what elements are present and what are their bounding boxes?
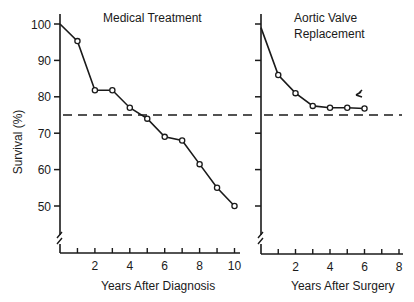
y-tick-label: 80 xyxy=(38,90,52,104)
right-title-line1: Aortic Valve xyxy=(294,11,357,25)
x-tick-label: 8 xyxy=(196,259,203,273)
left-x-label: Years After Diagnosis xyxy=(101,279,215,293)
data-point-marker xyxy=(75,39,80,44)
x-tick-label: 6 xyxy=(361,260,368,274)
left-title: Medical Treatment xyxy=(103,11,202,25)
data-point-marker xyxy=(92,88,97,93)
data-point-marker xyxy=(162,134,167,139)
x-tick-label: 4 xyxy=(126,259,133,273)
data-point-marker xyxy=(310,103,315,108)
x-tick-label: 8 xyxy=(396,260,403,274)
y-tick-label: 100 xyxy=(31,18,51,32)
survival-chart: 1009080706050 246810 Medical Treatment Y… xyxy=(0,0,414,302)
y-tick-label: 60 xyxy=(38,163,52,177)
right-title-line2: Replacement xyxy=(294,27,365,41)
x-tick-label: 2 xyxy=(92,259,99,273)
y-tick-label: 70 xyxy=(38,127,52,141)
right-panel: 2468 Aortic Valve Replacement Years Afte… xyxy=(255,11,403,293)
data-point-marker xyxy=(327,105,332,110)
data-point-marker xyxy=(276,72,281,77)
data-point-marker xyxy=(293,91,298,96)
x-tick-label: 2 xyxy=(292,260,299,274)
data-point-marker xyxy=(345,105,350,110)
x-tick-label: 10 xyxy=(228,259,242,273)
x-tick-label: 6 xyxy=(161,259,168,273)
y-tick-label: 90 xyxy=(38,54,52,68)
data-point-marker xyxy=(197,162,202,167)
data-point-marker xyxy=(232,203,237,208)
data-point-marker xyxy=(214,185,219,190)
right-x-label: Years After Surgery xyxy=(291,279,395,293)
annotation-marker-icon xyxy=(356,90,362,97)
data-point-marker xyxy=(180,138,185,143)
data-point-marker xyxy=(145,116,150,121)
data-point-marker xyxy=(362,106,367,111)
x-tick-label: 4 xyxy=(327,260,334,274)
y-axis-label: Survival (%) xyxy=(11,110,25,175)
data-point-marker xyxy=(110,88,115,93)
y-tick-label: 50 xyxy=(38,200,52,214)
data-point-marker xyxy=(127,105,132,110)
left-panel: 1009080706050 246810 Medical Treatment Y… xyxy=(11,11,255,293)
